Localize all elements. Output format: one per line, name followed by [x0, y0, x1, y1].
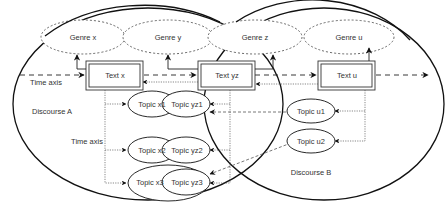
discourse-b-label: Discourse B: [291, 168, 331, 177]
topic-x2-label: Topic x2: [138, 146, 166, 155]
topic-x1-label: Topic x1: [138, 100, 166, 109]
topic-u2-label: Topic u2: [297, 137, 325, 146]
discourse-genre-text-topic-diagram: Genre x Genre y Genre z Genre u Text x T…: [0, 0, 448, 212]
text-yz-label: Text yz: [215, 71, 238, 80]
text-x-label: Text x: [105, 71, 125, 80]
genre-y-label: Genre y: [155, 33, 182, 42]
genre-x-label: Genre x: [70, 33, 97, 42]
genre-z-label: Genre z: [242, 33, 269, 42]
topic-u1-label: Topic u1: [297, 107, 325, 116]
text-u-label: Text u: [337, 71, 357, 80]
topic-yz1-label: Topic yz1: [171, 100, 202, 109]
topic-yz3-label: Topic yz3: [171, 178, 202, 187]
discourse-a-label: Discourse A: [32, 107, 72, 116]
topic-x3-label: Topic x3: [136, 178, 164, 187]
genre-u-label: Genre u: [335, 33, 362, 42]
time-axis-topics-label: Time axis: [71, 137, 103, 146]
topic-yz2-label: Topic yz2: [171, 146, 202, 155]
time-axis-top-label: Time axis: [30, 78, 62, 87]
